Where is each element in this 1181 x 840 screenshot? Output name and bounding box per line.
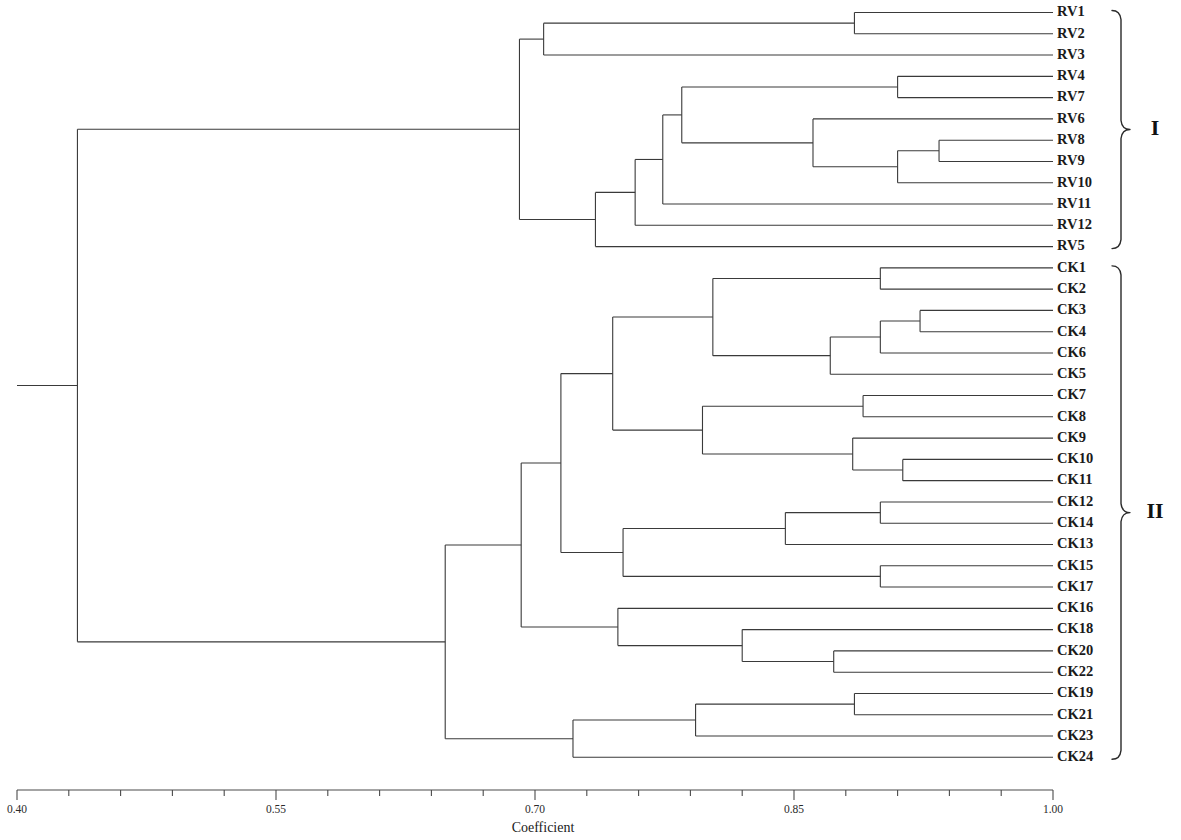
leaf-label: CK6 xyxy=(1057,344,1086,360)
leaf-label: CK1 xyxy=(1057,259,1086,275)
leaf-label: CK23 xyxy=(1057,727,1093,743)
leaf-label: CK18 xyxy=(1057,620,1093,636)
leaf-label: CK20 xyxy=(1057,642,1093,658)
leaf-label: CK4 xyxy=(1057,323,1086,339)
leaf-label: CK5 xyxy=(1057,365,1086,381)
leaf-label: RV12 xyxy=(1057,216,1092,232)
leaf-label: CK22 xyxy=(1057,663,1093,679)
leaf-label: CK21 xyxy=(1057,706,1093,722)
leaf-label: CK17 xyxy=(1057,578,1093,594)
leaf-label: CK9 xyxy=(1057,429,1086,445)
leaf-label: RV11 xyxy=(1057,195,1091,211)
axis-title: Coefficient xyxy=(512,820,575,835)
axis-tick-label: 0.55 xyxy=(266,803,286,815)
leaf-label: RV5 xyxy=(1057,237,1085,253)
axis-tick-label: 0.40 xyxy=(7,803,27,815)
leaf-label: CK16 xyxy=(1057,599,1093,615)
axis-tick-label: 0.85 xyxy=(784,803,804,815)
leaf-label: CK13 xyxy=(1057,535,1093,551)
leaf-label: RV6 xyxy=(1057,110,1085,126)
leaf-label: CK10 xyxy=(1057,450,1093,466)
leaf-label: CK3 xyxy=(1057,301,1086,317)
leaf-label: CK19 xyxy=(1057,684,1093,700)
axis-tick-label: 0.70 xyxy=(525,803,545,815)
leaf-label: CK7 xyxy=(1057,386,1086,402)
dendrogram-figure: RV1RV2RV3RV4RV7RV6RV8RV9RV10RV11RV12RV5C… xyxy=(0,0,1181,840)
figure-background xyxy=(0,0,1181,840)
leaf-label: RV9 xyxy=(1057,152,1085,168)
leaf-label: CK11 xyxy=(1057,471,1092,487)
leaf-label: CK15 xyxy=(1057,557,1093,573)
group-label: II xyxy=(1146,498,1163,523)
group-label: I xyxy=(1151,115,1160,140)
leaf-label: RV4 xyxy=(1057,67,1085,83)
leaf-label: CK24 xyxy=(1057,748,1093,764)
leaf-label: RV10 xyxy=(1057,174,1092,190)
leaf-label: RV7 xyxy=(1057,88,1085,104)
leaf-label: RV8 xyxy=(1057,131,1085,147)
leaf-label: CK8 xyxy=(1057,408,1086,424)
leaf-label: RV3 xyxy=(1057,46,1085,62)
leaf-label: RV2 xyxy=(1057,25,1085,41)
leaf-label: CK14 xyxy=(1057,514,1093,530)
leaf-label: CK12 xyxy=(1057,493,1093,509)
leaf-label: CK2 xyxy=(1057,280,1086,296)
axis-tick-label: 1.00 xyxy=(1043,803,1063,815)
leaf-label: RV1 xyxy=(1057,3,1085,19)
